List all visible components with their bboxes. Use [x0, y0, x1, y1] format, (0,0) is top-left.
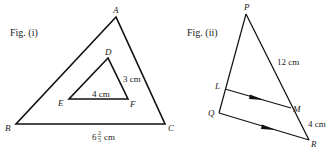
figure-2-caption: Fig. (ii) [187, 27, 218, 39]
vertex-b-label: B [5, 123, 11, 133]
side-pq [219, 14, 246, 113]
side-pr [246, 14, 309, 140]
side-pm-length: 12 cm [277, 57, 299, 67]
vertex-e-label: E [57, 98, 64, 108]
svg-text:5: 5 [98, 137, 101, 143]
vertex-f-label: F [129, 99, 136, 109]
vertex-d-label: D [104, 47, 112, 57]
parallel-arrow-lm-icon [249, 95, 264, 101]
point-m-label: M [292, 104, 301, 114]
svg-text:cm: cm [104, 132, 115, 142]
figure-2: Fig. (ii) P L M Q R 12 cm 4 cm [187, 2, 326, 149]
point-p-label: P [243, 2, 250, 12]
figure-canvas: Fig. (i) A B C D E F 4 cm 3 cm 6 2 5 cm … [0, 0, 334, 159]
triangle-abc [16, 17, 165, 124]
figure-1: Fig. (i) A B C D E F 4 cm 3 cm 6 2 5 cm [5, 5, 175, 143]
point-l-label: L [214, 81, 220, 91]
parallel-arrow-qr-icon [261, 125, 276, 131]
point-r-label: R [310, 139, 317, 149]
side-mr-length: 4 cm [308, 119, 326, 129]
side-bc-length: 6 2 5 cm [92, 130, 115, 143]
vertex-a-label: A [112, 5, 119, 15]
side-ef-length: 4 cm [92, 89, 110, 99]
vertex-c-label: C [168, 123, 175, 133]
point-q-label: Q [208, 108, 215, 118]
figure-1-caption: Fig. (i) [10, 27, 38, 39]
svg-text:6: 6 [92, 132, 97, 142]
svg-text:2: 2 [98, 130, 101, 136]
side-df-length: 3 cm [123, 74, 141, 84]
